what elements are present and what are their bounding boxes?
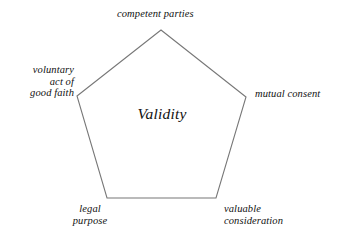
node-label-competent-parties: competent parties <box>117 8 194 20</box>
node-label-valuable-consideration: valuable consideration <box>224 203 283 226</box>
node-label-line-2: purpose <box>73 215 108 226</box>
pentagon-diagram: Validity competent parties voluntary act… <box>0 0 350 241</box>
node-label-mutual-consent: mutual consent <box>255 88 320 100</box>
node-label-voluntary-act-of-good-faith: voluntary act of good faith <box>0 64 74 99</box>
node-label-legal-purpose: legal purpose <box>60 203 120 226</box>
node-label-line-1: legal <box>79 203 101 214</box>
node-label-line-1: voluntary <box>33 64 74 75</box>
node-label-line-1: valuable <box>224 203 261 214</box>
node-label-line-2: consideration <box>224 215 283 226</box>
node-label-line-3: good faith <box>30 87 74 98</box>
center-label-validity: Validity <box>107 105 217 123</box>
node-label-line-2: act of <box>50 76 74 87</box>
